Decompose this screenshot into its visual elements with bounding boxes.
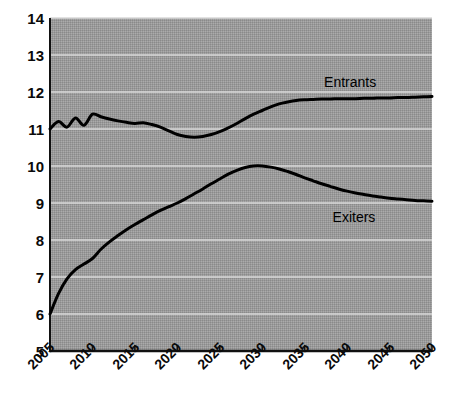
series-label-exiters: Exiters	[333, 209, 376, 225]
plot-background	[50, 18, 432, 351]
series-label-entrants: Entrants	[324, 74, 376, 90]
chart-container: 141312111098765 200520102015202020252030…	[0, 0, 451, 413]
